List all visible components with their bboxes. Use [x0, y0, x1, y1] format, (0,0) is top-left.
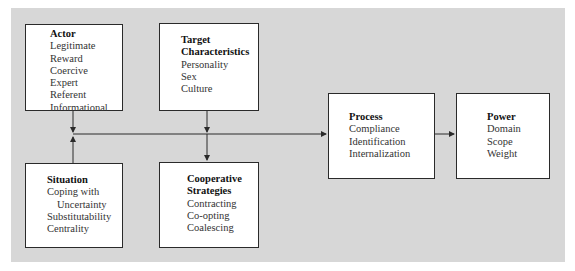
power-item: Weight [487, 148, 521, 160]
actor-item: Referent [50, 89, 108, 101]
power-box: Power Domain Scope Weight [456, 93, 550, 179]
cooperative-title-line2: Strategies [187, 185, 242, 197]
cooperative-box: Cooperative Strategies Contracting Co-op… [159, 162, 259, 248]
target-title-line1: Target [181, 34, 249, 46]
cooperative-item: Co-opting [187, 210, 242, 222]
process-title: Process [349, 111, 410, 123]
target-item: Sex [181, 71, 249, 83]
actor-item: Reward [50, 53, 108, 65]
actor-box: Actor Legitimate Reward Coercive Expert … [25, 24, 123, 111]
target-title-line2: Characteristics [181, 46, 249, 58]
actor-item: Informational [50, 102, 108, 114]
power-item: Domain [487, 123, 521, 135]
situation-title: Situation [47, 174, 111, 186]
process-item: Internalization [349, 148, 410, 160]
power-item: Scope [487, 136, 521, 148]
actor-item: Expert [50, 77, 108, 89]
actor-item: Legitimate [50, 40, 108, 52]
target-item: Personality [181, 59, 249, 71]
situation-box: Situation Coping with Uncertainty Substi… [25, 163, 123, 248]
cooperative-title-line1: Cooperative [187, 173, 242, 185]
process-box: Process Compliance Identification Intern… [328, 93, 435, 179]
situation-item: Substitutability [47, 211, 111, 223]
actor-item: Coercive [50, 65, 108, 77]
cooperative-item: Coalescing [187, 222, 242, 234]
target-item: Culture [181, 83, 249, 95]
process-item: Compliance [349, 123, 410, 135]
process-item: Identification [349, 136, 410, 148]
cooperative-item: Contracting [187, 198, 242, 210]
situation-item: Uncertainty [47, 199, 111, 211]
target-box: Target Characteristics Personality Sex C… [159, 23, 259, 111]
actor-title: Actor [50, 28, 108, 40]
situation-item: Centrality [47, 223, 111, 235]
power-title: Power [487, 111, 521, 123]
situation-item: Coping with [47, 186, 111, 198]
